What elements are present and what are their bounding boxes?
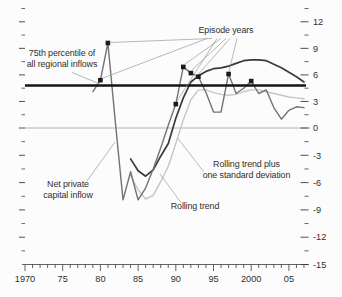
x-tick-label-2005: 05 — [284, 274, 294, 284]
episode-marker-1993 — [196, 74, 201, 79]
75th-percentile-label-line-1: 75th percentile of — [29, 48, 96, 58]
x-tick-label-1995: 95 — [208, 274, 218, 284]
net-private-capital-inflow-label-line-2: capital inflow — [43, 190, 93, 200]
episode-marker-1992 — [189, 71, 194, 76]
y-tick-label-9: 9 — [313, 44, 318, 54]
x-tick-label-1985: 85 — [133, 274, 143, 284]
episode-years-label: Episode years — [199, 25, 255, 35]
y-tick-label--3: -3 — [313, 151, 321, 161]
y-tick-label-6: 6 — [313, 70, 318, 80]
75th-percentile-label-line-2: all regional inflows — [27, 59, 98, 69]
x-tick-label-2000: 2000 — [241, 274, 261, 284]
rolling-trend-plus-sd-label-line-2: one standard deviation — [203, 170, 291, 180]
episode-marker-1990 — [174, 102, 179, 107]
net-private-capital-inflow-label-line-1: Net private — [47, 179, 89, 189]
chart-figure: 19707580859095200005129630-3-6-9-12-1575… — [0, 0, 342, 297]
chart-background — [0, 0, 342, 297]
x-tick-label-1980: 80 — [95, 274, 105, 284]
y-tick-label--12: -12 — [313, 232, 326, 242]
y-tick-label-3: 3 — [313, 97, 318, 107]
x-tick-label-1975: 75 — [58, 274, 68, 284]
y-tick-label--9: -9 — [313, 205, 321, 215]
x-tick-label-1990: 90 — [171, 274, 181, 284]
episode-marker-1980 — [98, 78, 103, 83]
x-tick-label-1970: 1970 — [15, 274, 35, 284]
episode-marker-1981 — [106, 41, 111, 46]
episode-marker-2000 — [249, 79, 254, 84]
y-tick-label-0: 0 — [313, 123, 318, 133]
rolling-trend-plus-sd-label-line-1: Rolling trend plus — [213, 159, 280, 169]
y-tick-label-12: 12 — [313, 17, 323, 27]
y-tick-label--15: -15 — [313, 260, 326, 270]
episode-marker-1997 — [226, 72, 231, 77]
episode-marker-1991 — [181, 65, 186, 70]
capital-inflows-chart: 19707580859095200005129630-3-6-9-12-1575… — [0, 0, 342, 297]
y-tick-label--6: -6 — [313, 178, 321, 188]
rolling-trend-label: Rolling trend — [171, 201, 220, 211]
